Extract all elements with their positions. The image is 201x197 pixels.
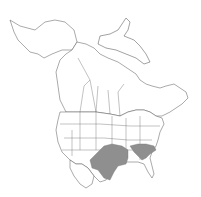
canada: [56, 42, 188, 116]
range-map: [0, 0, 201, 197]
alaska: [10, 20, 77, 58]
